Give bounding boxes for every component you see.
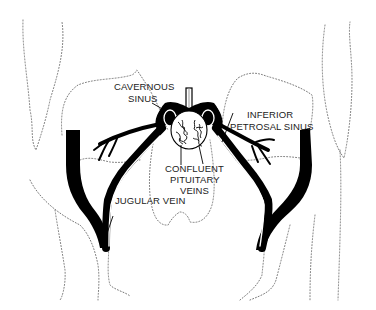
- outline-left-jaw: [108, 240, 130, 296]
- label-inferior-petrosal-sinus-line2: PETROSAL SINUS: [230, 121, 313, 132]
- pituitary-gland: [171, 111, 207, 149]
- label-cavernous-sinus-line2: SINUS: [128, 93, 158, 104]
- outline-right-face: [322, 22, 352, 158]
- outline-left-face: [23, 20, 63, 150]
- anatomy-diagram: CAVERNOUS SINUS INFERIOR PETROSAL SINUS …: [0, 0, 376, 310]
- left-jugular-vein: [66, 130, 108, 248]
- outline-right-neck-outer: [310, 215, 315, 300]
- label-cavernous-sinus-line1: CAVERNOUS: [114, 81, 174, 92]
- label-confluent-pituitary-veins-line1: CONFLUENT: [165, 163, 224, 174]
- label-jugular-vein: JUGULAR VEIN: [115, 195, 185, 206]
- label-inferior-petrosal-sinus-line1: INFERIOR: [247, 109, 293, 120]
- outline-right-neck: [250, 225, 290, 300]
- left-venous-system: [66, 108, 165, 248]
- outline-left-neck-inner: [55, 210, 65, 300]
- pituitary-stalk: [186, 88, 192, 110]
- label-confluent-pituitary-veins-line2: PITUITARY: [170, 174, 220, 185]
- leader-confluent-pituitary-veins-right: [199, 146, 203, 164]
- outline-right-lower: [338, 150, 341, 300]
